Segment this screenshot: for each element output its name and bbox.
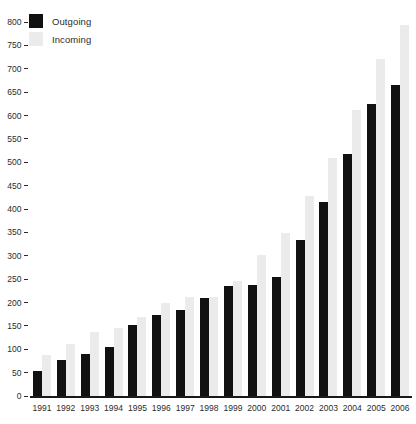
y-axis-tick-label: 650 [7, 87, 21, 97]
y-axis-tick-label: 700 [7, 64, 21, 74]
bar-incoming-1992 [66, 344, 75, 396]
x-axis-tick-label: 1992 [56, 400, 75, 413]
legend-swatch-incoming-icon [29, 32, 43, 46]
y-axis-tick: 100 [0, 343, 30, 355]
bar-outgoing-2002 [296, 240, 305, 396]
bar-outgoing-1992 [57, 360, 66, 396]
bar-chart: Outgoing Incoming 0501001502002503003504… [0, 0, 416, 424]
y-axis-tick-label: 600 [7, 111, 21, 121]
x-axis-tick: 2001 [269, 400, 293, 420]
bar-group [221, 22, 245, 396]
y-axis-tick-label: 800 [7, 17, 21, 27]
y-axis-tick-mark [24, 255, 28, 256]
x-axis-tick: 1995 [126, 400, 150, 420]
bar-group [293, 22, 317, 396]
y-axis-tick: 750 [0, 39, 30, 51]
x-axis-tick: 1993 [78, 400, 102, 420]
x-axis-tick: 1997 [173, 400, 197, 420]
x-axis-tick-label: 2002 [295, 400, 314, 413]
y-axis-tick-label: 0 [17, 391, 22, 401]
x-axis-tick-label: 1991 [32, 400, 51, 413]
y-axis-tick: 350 [0, 226, 30, 238]
bar-outgoing-1991 [33, 371, 42, 396]
y-axis-tick-label: 200 [7, 298, 21, 308]
legend-label-outgoing: Outgoing [52, 16, 91, 27]
x-axis-tick: 1991 [30, 400, 54, 420]
y-axis-tick: 450 [0, 180, 30, 192]
bar-incoming-1997 [185, 297, 194, 396]
bar-outgoing-2001 [272, 277, 281, 396]
x-axis-tick-label: 1994 [104, 400, 123, 413]
x-axis-tick-label: 1993 [80, 400, 99, 413]
y-axis-tick-mark [24, 302, 28, 303]
y-axis-tick-mark [24, 209, 28, 210]
y-axis-tick-mark [24, 396, 28, 397]
y-axis-tick-label: 50 [12, 368, 21, 378]
x-axis-line [30, 396, 412, 398]
bar-group [197, 22, 221, 396]
y-axis-tick: 200 [0, 297, 30, 309]
x-axis-tick: 2000 [245, 400, 269, 420]
y-axis-tick-label: 500 [7, 157, 21, 167]
y-axis-tick-label: 150 [7, 321, 21, 331]
bar-outgoing-1997 [176, 310, 185, 396]
y-axis-tick-label: 550 [7, 134, 21, 144]
y-axis-tick: 500 [0, 156, 30, 168]
bar-outgoing-2000 [248, 285, 257, 396]
bar-group [149, 22, 173, 396]
y-axis-tick-mark [24, 162, 28, 163]
y-axis-tick-mark [24, 185, 28, 186]
x-axis-tick-label: 2004 [343, 400, 362, 413]
y-axis-tick-mark [24, 279, 28, 280]
x-axis: 1991199219931994199519961997199819992000… [30, 400, 412, 420]
y-axis-tick-label: 250 [7, 274, 21, 284]
bar-incoming-1993 [90, 332, 99, 397]
x-axis-tick: 1992 [54, 400, 78, 420]
x-axis-tick: 2003 [317, 400, 341, 420]
x-axis-tick-label: 1997 [176, 400, 195, 413]
y-axis-tick-mark [24, 372, 28, 373]
legend-item-incoming: Incoming [29, 30, 91, 48]
bar-outgoing-2003 [319, 202, 328, 396]
bar-group [78, 22, 102, 396]
legend-item-outgoing: Outgoing [29, 12, 91, 30]
x-axis-tick-label: 2006 [391, 400, 410, 413]
x-axis-tick: 2005 [364, 400, 388, 420]
y-axis-tick-mark [24, 92, 28, 93]
y-axis-tick: 650 [0, 86, 30, 98]
y-axis-tick: 400 [0, 203, 30, 215]
bar-incoming-2000 [257, 255, 266, 396]
bar-group [317, 22, 341, 396]
chart-legend: Outgoing Incoming [29, 12, 91, 48]
bar-incoming-1994 [114, 328, 123, 396]
y-axis-tick-mark [24, 68, 28, 69]
y-axis-tick-label: 100 [7, 344, 21, 354]
bar-outgoing-1996 [152, 315, 161, 396]
bar-outgoing-1994 [105, 347, 114, 396]
bar-series-area [30, 22, 412, 396]
bar-group [126, 22, 150, 396]
x-axis-tick-label: 2000 [247, 400, 266, 413]
bar-outgoing-2006 [391, 85, 400, 396]
bar-incoming-2004 [352, 110, 361, 396]
x-axis-tick-label: 1999 [223, 400, 242, 413]
bar-group [364, 22, 388, 396]
x-axis-tick: 1996 [149, 400, 173, 420]
bar-incoming-1999 [233, 281, 242, 396]
bar-incoming-2006 [400, 25, 409, 396]
bar-incoming-1991 [42, 355, 51, 396]
y-axis-tick: 250 [0, 273, 30, 285]
legend-label-incoming: Incoming [52, 34, 91, 45]
y-axis-tick-mark [24, 138, 28, 139]
y-axis-tick: 550 [0, 133, 30, 145]
bar-incoming-1998 [209, 297, 218, 396]
bar-group [388, 22, 412, 396]
x-axis-tick-label: 1996 [152, 400, 171, 413]
y-axis-tick: 800 [0, 16, 30, 28]
x-axis-tick-label: 2003 [319, 400, 338, 413]
y-axis-tick: 50 [0, 367, 30, 379]
x-axis-tick: 1998 [197, 400, 221, 420]
bar-group [173, 22, 197, 396]
y-axis-tick-mark [24, 325, 28, 326]
bar-outgoing-1998 [200, 298, 209, 396]
